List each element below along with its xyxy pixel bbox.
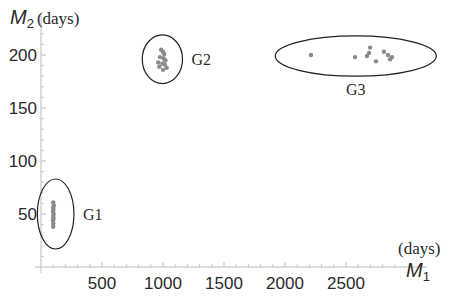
scatter-chart: 5001000150020002500 50100150200 M2(days)… <box>0 0 449 302</box>
data-points <box>51 45 394 229</box>
axes: 5001000150020002500 50100150200 <box>9 14 427 294</box>
y-axis-symbol: M <box>10 6 27 28</box>
y-axis-unit: (days) <box>37 9 79 28</box>
y-tick-label: 100 <box>9 152 37 171</box>
y-tick-label: 50 <box>18 205 37 224</box>
data-point <box>353 55 357 59</box>
data-point <box>157 64 161 68</box>
data-point <box>382 50 386 54</box>
group-label-g1: G1 <box>83 206 103 223</box>
y-tick-label: 200 <box>9 46 37 65</box>
x-tick-label: 500 <box>88 274 116 293</box>
data-point <box>368 45 372 49</box>
data-point <box>367 51 371 55</box>
y-tick-labels: 50100150200 <box>9 46 37 224</box>
y-tick-label: 150 <box>9 99 37 118</box>
x-axis-subscript: 1 <box>423 269 430 284</box>
y-minor-ticks <box>41 34 46 257</box>
data-point <box>386 53 390 57</box>
group-label-g3: G3 <box>346 81 366 98</box>
data-point <box>390 55 394 59</box>
x-axis-unit: (days) <box>398 239 440 258</box>
data-point <box>156 60 160 64</box>
group-label-g2: G2 <box>192 51 212 68</box>
x-tick-label: 2000 <box>266 274 304 293</box>
x-tick-label: 1000 <box>144 274 182 293</box>
x-minor-ticks <box>53 262 395 267</box>
x-tick-label: 2500 <box>327 274 365 293</box>
y-axis-title: M2(days) <box>10 6 79 31</box>
data-point <box>163 58 167 62</box>
group-labels: G1G2G3 <box>83 51 366 223</box>
data-point <box>309 53 313 57</box>
x-tick-labels: 5001000150020002500 <box>88 274 365 293</box>
data-point <box>374 59 378 63</box>
data-point <box>51 225 55 229</box>
data-point <box>162 52 166 56</box>
y-axis-subscript: 2 <box>27 16 34 31</box>
x-axis-title: M1 <box>406 259 430 284</box>
x-tick-label: 1500 <box>205 274 243 293</box>
x-axis-symbol: M <box>406 259 423 281</box>
data-point <box>164 66 168 70</box>
